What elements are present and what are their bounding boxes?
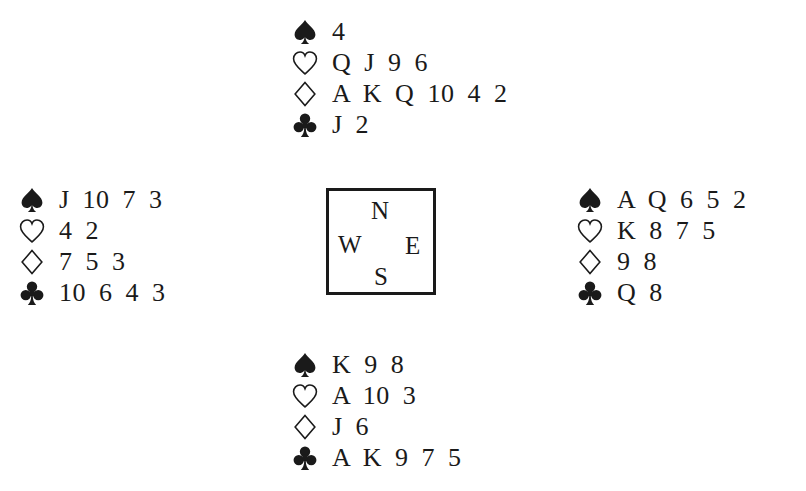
spade-icon [292,19,318,45]
south-spades-cards: K 9 8 [332,349,404,380]
south-diamonds-row: J 6 [292,411,462,442]
compass-east-label: E [405,233,420,258]
south-hearts-row: A 10 3 [292,380,462,411]
south-diamonds-cards: J 6 [332,411,369,442]
spade-icon [577,187,603,213]
north-diamonds-cards: A K Q 10 4 2 [332,78,507,109]
diamond-icon [19,249,45,275]
south-spades-row: K 9 8 [292,349,462,380]
east-diamonds-cards: 9 8 [617,246,657,277]
east-clubs-row: Q 8 [577,277,747,308]
hand-south: K 9 8 A 10 3 J 6 A K 9 7 5 [292,349,462,473]
compass-west-label: W [338,232,362,257]
diamond-icon [292,81,318,107]
south-clubs-cards: A K 9 7 5 [332,442,462,473]
west-diamonds-cards: 7 5 3 [59,246,126,277]
north-hearts-cards: Q J 9 6 [332,47,428,78]
compass-south-label: S [374,264,388,289]
club-icon [19,280,45,306]
north-spades-cards: 4 [332,16,346,47]
east-clubs-cards: Q 8 [617,277,663,308]
heart-icon [292,50,318,76]
heart-icon [19,218,45,244]
east-spades-row: A Q 6 5 2 [577,184,747,215]
diamond-icon [292,414,318,440]
north-spades-row: 4 [292,16,507,47]
east-hearts-cards: K 8 7 5 [617,215,716,246]
spade-icon [19,187,45,213]
east-hearts-row: K 8 7 5 [577,215,747,246]
compass-box: N W E S [326,188,436,295]
spade-icon [292,352,318,378]
west-hearts-row: 4 2 [19,215,166,246]
heart-icon [292,383,318,409]
club-icon [577,280,603,306]
north-clubs-cards: J 2 [332,109,369,140]
south-clubs-row: A K 9 7 5 [292,442,462,473]
east-diamonds-row: 9 8 [577,246,747,277]
west-hearts-cards: 4 2 [59,215,99,246]
south-hearts-cards: A 10 3 [332,380,416,411]
compass-north-label: N [371,198,389,223]
west-clubs-cards: 10 6 4 3 [59,277,166,308]
north-diamonds-row: A K Q 10 4 2 [292,78,507,109]
hand-east: A Q 6 5 2 K 8 7 5 9 8 Q 8 [577,184,747,308]
hand-west: J 10 7 3 4 2 7 5 3 10 6 4 3 [19,184,166,308]
north-hearts-row: Q J 9 6 [292,47,507,78]
club-icon [292,112,318,138]
diamond-icon [577,249,603,275]
north-clubs-row: J 2 [292,109,507,140]
hand-north: 4 Q J 9 6 A K Q 10 4 2 J 2 [292,16,507,140]
west-clubs-row: 10 6 4 3 [19,277,166,308]
east-spades-cards: A Q 6 5 2 [617,184,747,215]
club-icon [292,445,318,471]
west-diamonds-row: 7 5 3 [19,246,166,277]
heart-icon [577,218,603,244]
west-spades-row: J 10 7 3 [19,184,166,215]
west-spades-cards: J 10 7 3 [59,184,163,215]
